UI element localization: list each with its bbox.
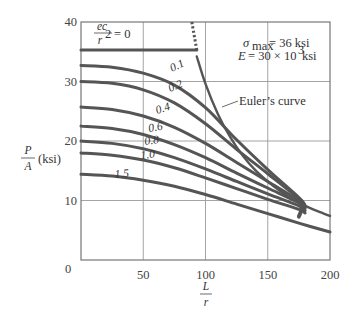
curve-label: 0.4 bbox=[154, 100, 172, 116]
y-tick-label: 20 bbox=[65, 134, 78, 148]
e-unit: ksi bbox=[302, 49, 317, 63]
y-axis-label: P A (ksi) bbox=[21, 144, 61, 172]
series-line bbox=[192, 22, 197, 50]
curve-label: 0.2 bbox=[166, 77, 184, 94]
euler-curve-annotation: Euler’s curve bbox=[222, 94, 306, 108]
curve-label: 0.8 bbox=[144, 133, 160, 147]
curve-label: 0.1 bbox=[168, 57, 186, 74]
ecr-denominator: r bbox=[98, 34, 103, 46]
x-label-denominator: r bbox=[204, 296, 209, 308]
x-tick-label: 150 bbox=[258, 268, 277, 282]
ecr-exponent: 2 bbox=[105, 27, 111, 41]
x-tick-label: 200 bbox=[321, 268, 340, 282]
ecr-zero-annotation: ec r 2 = 0 bbox=[94, 20, 130, 46]
y-label-numerator: P bbox=[23, 144, 31, 156]
curve-label: 1.5 bbox=[114, 167, 130, 180]
e-value: = 30 × 10 bbox=[248, 49, 296, 63]
curve-label: 0.6 bbox=[147, 120, 163, 134]
x-label-numerator: L bbox=[202, 280, 209, 292]
e-symbol: E bbox=[237, 49, 246, 63]
euler-label: Euler’s curve bbox=[239, 94, 306, 108]
y-label-unit: (ksi) bbox=[38, 152, 61, 166]
y-tick-label: 30 bbox=[65, 75, 78, 89]
x-tick-label: 50 bbox=[137, 268, 150, 282]
x-axis-label: L r bbox=[200, 280, 212, 308]
material-properties-annotation: σ max = 36 ksi E = 30 × 10 3 ksi bbox=[237, 36, 317, 63]
tick-label-origin: 0 bbox=[65, 262, 71, 276]
curve-label: 1.0 bbox=[140, 148, 156, 161]
ecr-value: = 0 bbox=[114, 27, 130, 41]
sigma-symbol: σ bbox=[243, 36, 250, 50]
y-tick-label: 10 bbox=[65, 194, 78, 208]
euler-leader-line bbox=[222, 101, 238, 107]
y-tick-label: 40 bbox=[65, 15, 78, 29]
column-strength-chart: 05010015020010203040 P A (ksi) L r ec r … bbox=[0, 0, 354, 321]
y-label-denominator: A bbox=[23, 160, 32, 172]
